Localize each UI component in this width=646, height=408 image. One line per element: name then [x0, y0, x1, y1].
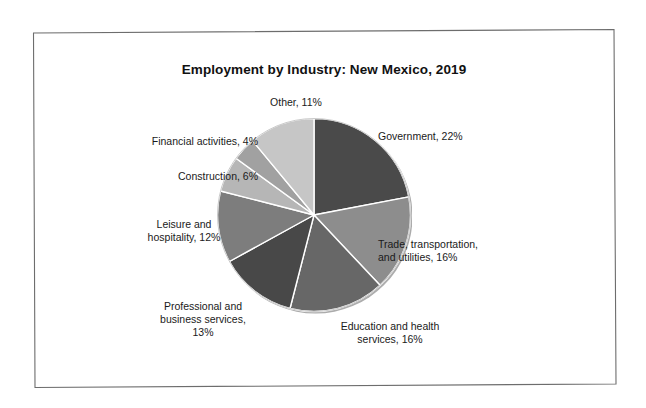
slice-label-government: Government, 22%	[378, 130, 548, 143]
slice-label-leisure-hospitality: Leisure and hospitality, 12%	[109, 218, 259, 244]
chart-title: Employment by Industry: New Mexico, 2019	[33, 62, 615, 77]
slice-label-construction: Construction, 6%	[103, 170, 258, 183]
slice-label-other: Other, 11%	[231, 96, 361, 109]
slice-label-financial-activities: Financial activities, 4%	[93, 135, 258, 148]
slice-label-trade-transportation-utilities: Trade, transportation, and utilities, 16…	[378, 238, 558, 264]
slice-label-education-health-services: Education and health services, 16%	[305, 320, 475, 346]
chart-container: Employment by Industry: New Mexico, 2019…	[33, 30, 615, 386]
slice-label-professional-business-services: Professional and business services, 13%	[128, 300, 278, 339]
